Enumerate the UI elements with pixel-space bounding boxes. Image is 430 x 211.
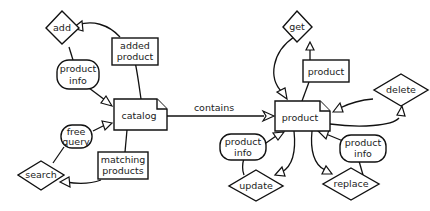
arrowhead-get (306, 42, 314, 50)
edge-delete-to-product (340, 99, 373, 108)
svg-text:info: info (354, 148, 372, 159)
edge-product-to-delete (330, 118, 399, 126)
message-add-product-info[interactable]: product info (57, 60, 99, 89)
svg-text:matching: matching (101, 154, 146, 165)
arrowhead-catalog-search (102, 121, 112, 130)
operation-add[interactable]: add (46, 11, 79, 44)
svg-text:product: product (345, 137, 382, 148)
svg-text:info: info (234, 147, 252, 158)
svg-text:query: query (62, 136, 90, 147)
message-added-product[interactable]: added product (112, 38, 158, 65)
message-get-product[interactable]: product (303, 60, 349, 82)
arrowhead-product-from-update (273, 132, 284, 140)
svg-text:delete: delete (386, 84, 416, 95)
svg-text:product: product (282, 112, 319, 123)
svg-text:search: search (25, 169, 57, 180)
svg-text:replace: replace (333, 178, 368, 189)
operation-get[interactable]: get (283, 11, 312, 42)
resource-catalog[interactable]: catalog (114, 99, 167, 130)
svg-text:update: update (239, 180, 273, 191)
edge-catalog-to-matching (125, 130, 127, 152)
arrowhead-replace (322, 166, 332, 174)
svg-text:added: added (120, 40, 150, 51)
edge-product-to-product-msg (302, 82, 309, 101)
svg-text:products: products (102, 165, 144, 176)
arrowhead-search (60, 177, 70, 187)
svg-text:info: info (69, 75, 87, 86)
svg-text:product: product (308, 66, 345, 77)
edge-product-to-update (282, 131, 295, 172)
svg-text:product: product (225, 136, 262, 147)
edge-add-to-product-info (69, 47, 73, 60)
arrowhead-product-from-get (277, 88, 287, 99)
message-replace-product-info[interactable]: product info (340, 135, 386, 162)
message-free-query[interactable]: free query (61, 125, 92, 148)
operation-delete[interactable]: delete (374, 74, 428, 106)
diagram-canvas: add product info added product catalog c… (0, 0, 430, 211)
edge-update-info-to-product (266, 136, 276, 143)
svg-text:product: product (60, 63, 97, 74)
svg-text:product: product (117, 51, 154, 62)
add-label: add (53, 22, 71, 33)
edge-search-to-free-query (53, 147, 64, 163)
svg-text:get: get (289, 21, 305, 32)
message-matching-products[interactable]: matching products (98, 152, 148, 179)
edge-added-product-to-add (78, 23, 120, 37)
arrowhead-product-from-delete (333, 103, 343, 112)
arrowhead-delete (397, 106, 405, 116)
edge-matching-to-search (66, 180, 101, 183)
message-update-product-info[interactable]: product info (220, 134, 266, 160)
edge-replace-info-to-product (326, 134, 343, 141)
edge-get-to-product (274, 37, 294, 92)
edge-product-to-replace (312, 131, 325, 170)
relationship-contains-label: contains (194, 102, 234, 113)
arrowhead-contains (263, 111, 274, 121)
svg-text:catalog: catalog (121, 110, 156, 121)
edge-catalog-to-added-product (135, 62, 141, 99)
edge-product-info-to-catalog (89, 88, 105, 100)
arrowhead-update (275, 167, 285, 176)
operation-search[interactable]: search (18, 161, 64, 190)
resource-product[interactable]: product (275, 101, 330, 131)
